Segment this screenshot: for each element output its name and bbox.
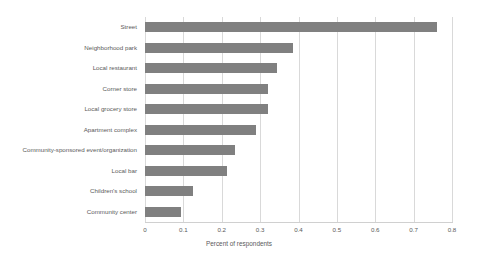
category-label: Children's school	[90, 181, 137, 202]
bar-row	[145, 181, 193, 202]
bar	[145, 22, 437, 32]
bar-row	[145, 17, 437, 38]
bar	[145, 207, 181, 217]
category-label: Community-sponsored event/organization	[22, 140, 137, 161]
category-label: Neighborhood park	[84, 38, 137, 59]
bar	[145, 125, 256, 135]
gridline	[299, 17, 300, 222]
bar-row	[145, 140, 235, 161]
bar	[145, 63, 277, 73]
gridline	[452, 17, 453, 222]
bar-row	[145, 202, 181, 223]
bar-row	[145, 161, 227, 182]
plot-area	[145, 17, 452, 222]
category-label: Local grocery store	[84, 99, 137, 120]
bar	[145, 186, 193, 196]
x-tick-label: 0.4	[294, 226, 303, 233]
category-axis-labels: StreetNeighborhood parkLocal restaurantC…	[0, 17, 141, 222]
bar-chart: StreetNeighborhood parkLocal restaurantC…	[0, 0, 478, 260]
category-label: Street	[120, 17, 137, 38]
x-tick-label: 0.7	[409, 226, 418, 233]
x-tick-label: 0.6	[371, 226, 380, 233]
x-tick-label: 0	[143, 226, 146, 233]
category-label: Local bar	[112, 161, 137, 182]
gridline	[337, 17, 338, 222]
bar-row	[145, 99, 268, 120]
bar	[145, 145, 235, 155]
category-label: Corner store	[103, 79, 137, 100]
bar	[145, 104, 268, 114]
x-tick-label: 0.8	[448, 226, 457, 233]
x-tick-label: 0.2	[217, 226, 226, 233]
bar	[145, 84, 268, 94]
x-tick-label: 0.3	[256, 226, 265, 233]
bar	[145, 166, 227, 176]
x-axis-title: Percent of respondents	[0, 240, 478, 247]
x-axis-tick-labels: 00.10.20.30.40.50.60.70.8	[0, 226, 478, 238]
x-tick-label: 0.5	[333, 226, 342, 233]
gridline	[375, 17, 376, 222]
bar-row	[145, 38, 293, 59]
bar-row	[145, 120, 256, 141]
gridline	[414, 17, 415, 222]
x-tick-label: 0.1	[179, 226, 188, 233]
bar	[145, 43, 293, 53]
bar-row	[145, 58, 277, 79]
category-label: Apartment complex	[84, 120, 137, 141]
category-label: Community center	[87, 202, 137, 223]
category-label: Local restaurant	[93, 58, 137, 79]
x-axis-line	[145, 222, 453, 223]
bar-row	[145, 79, 268, 100]
